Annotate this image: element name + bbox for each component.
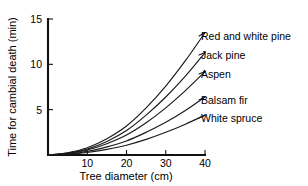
chart-plot-area: 51015 10203040 Red and white pineJack pi…	[0, 0, 308, 186]
series-labels-group: Red and white pineJack pineAspenBalsam f…	[201, 30, 291, 124]
y-tick-label: 15	[30, 13, 42, 25]
x-tick-label: 20	[121, 157, 133, 169]
y-tick-label: 5	[36, 104, 42, 116]
series-label-white-spruce: White spruce	[201, 112, 262, 124]
y-tick-label: 10	[30, 58, 42, 70]
chart-figure: 51015 10203040 Red and white pineJack pi…	[0, 0, 308, 186]
series-curves-group	[48, 33, 205, 155]
x-tick-labels-group: 10203040	[81, 157, 211, 169]
x-tick-label: 10	[81, 157, 93, 169]
series-label-red-and-white-pine: Red and white pine	[201, 30, 291, 42]
series-label-balsam-fir: Balsam fir	[201, 94, 248, 106]
x-tick-label: 30	[160, 157, 172, 169]
y-tick-labels-group: 51015	[30, 13, 42, 116]
y-axis-title: Time for cambial death (min)	[6, 17, 18, 157]
series-curve-jack-pine	[48, 53, 205, 155]
x-axis-title: Tree diameter (cm)	[79, 170, 172, 182]
series-label-aspen: Aspen	[201, 68, 231, 80]
x-tick-label: 40	[199, 157, 211, 169]
series-label-jack-pine: Jack pine	[201, 49, 246, 61]
